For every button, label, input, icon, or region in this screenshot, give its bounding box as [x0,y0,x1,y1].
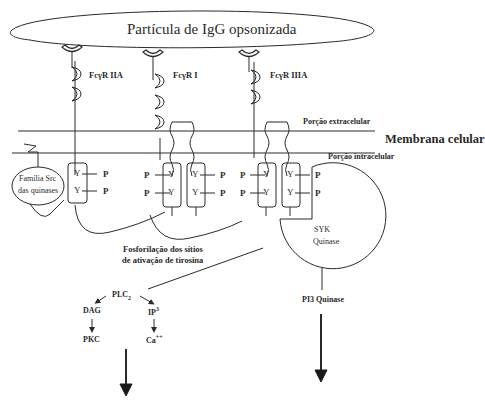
ip-text: IP [148,308,156,317]
phosphate-p: P [315,188,321,198]
phosphorylation-curves [75,205,242,239]
tyrosine-y: Y [168,169,175,179]
gamma-chain-dimer-2 [265,122,289,176]
ca-text: Ca [146,336,156,345]
tyrosine-y: Y [74,168,81,178]
receptor-label-fcgr-i: FcγR I [173,70,198,80]
gamma-chain-dimer-1 [170,122,194,176]
receptor-fcgr-iia-shape [62,45,82,175]
tyrosine-y: Y [287,187,294,197]
phosphate-p: P [144,188,150,198]
pi3-kinase-label: PI3 Quinase [302,295,344,304]
pkc-label: PKC [83,335,100,344]
ca-superscript: ++ [156,334,163,340]
plc-label: PLC2 [112,290,131,301]
receptor-fcgr-i-shape [143,50,164,160]
plc-text: PLC [112,290,128,299]
membrane-label: Membrana celular [385,132,485,147]
intracellular-label: Porção intracelular [328,152,394,161]
tyrosine-y: Y [192,169,199,179]
plc-to-dag-arrow [97,296,106,302]
big-arrow-right [315,314,327,382]
syk-kinase-shape [280,163,386,269]
src-family-label-1: Família Src [19,174,56,183]
tyrosine-y: Y [263,169,270,179]
phosphate-p: P [220,188,226,198]
phosphate-p: P [220,170,226,180]
tyrosine-y: Y [263,187,270,197]
big-arrow-left [120,349,132,396]
phosphate-p: P [144,170,150,180]
phosphorylation-label-2: de ativação de tirosina [122,255,203,265]
dag-label: DAG [83,306,101,315]
plc-to-ip3-arrow [140,296,152,303]
tyrosine-y: Y [74,185,81,195]
tyrosine-y: Y [168,187,175,197]
receptor-label-fcgr-iia: FcγR IIA [89,70,123,80]
receptor-fcgr-iiia-shape [239,50,260,158]
src-family-label-2: das quinases [18,186,58,195]
syk-label-1: SYK [314,225,330,234]
ca-label: Ca++ [146,334,163,345]
receptor-label-fcgr-iiia: FcγR IIIA [270,70,307,80]
phosphate-p: P [240,170,246,180]
phosphate-p: P [103,169,109,179]
phosphate-p: P [103,186,109,196]
plc-subscript: 2 [128,295,131,301]
extracellular-label: Porção extracelular [303,117,370,126]
tyrosine-y: Y [287,169,294,179]
igg-particle-label: Partícula de IgG opsonizada [127,21,297,38]
syk-label-2: Quinase [313,237,339,246]
tyrosine-y: Y [192,187,199,197]
phosphate-p: P [315,170,321,180]
ip3-label: IP3 [148,306,159,317]
phosphate-p: P [240,188,246,198]
ip-superscript: 3 [156,306,159,312]
phosphorylation-label-1: Fosforilação dos sítios [123,244,203,254]
